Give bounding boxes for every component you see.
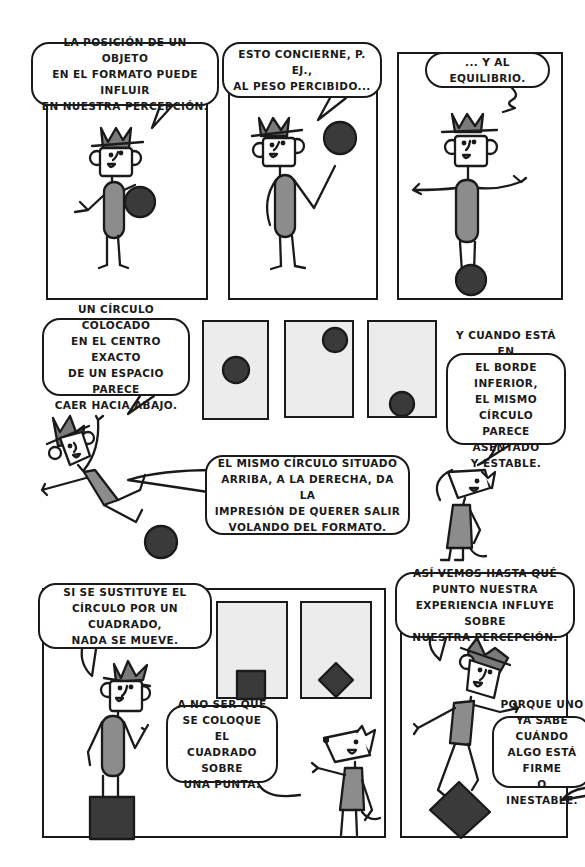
speech-bubble-stable: Y cuando está en el borde inferior, el m…	[446, 353, 566, 445]
dog-character-standing	[437, 470, 495, 560]
speech-bubble-point: A no ser que se coloque el cuadrado sobr…	[166, 705, 278, 783]
speech-bubble-falling: Un círculo colocado en el centro exacto …	[42, 318, 190, 396]
example-frame-square	[216, 601, 288, 699]
bubble-text: Si se sustituye el círculo Por un cuadra…	[46, 584, 204, 648]
bubble-text: Un círculo colocado en el centro exacto …	[50, 301, 182, 413]
speech-bubble-experience: Así vemos hasta qué Punto nuestra experi…	[395, 572, 575, 638]
speech-bubble-flying: El mismo círculo situado arriba, a la de…	[205, 455, 410, 535]
speech-bubble-firm: Porque uno ya sabe cuándo algo está firm…	[492, 716, 585, 788]
bubble-text: ... Y al equilibrio.	[433, 54, 542, 86]
speech-bubble-weight: Esto concierne, P. ej., al Peso Percibid…	[222, 42, 382, 98]
bubble-text: Así vemos hasta qué Punto nuestra experi…	[403, 565, 567, 645]
bubble-text: A no ser que se coloque el cuadrado sobr…	[174, 696, 270, 792]
bubble-text: El mismo círculo situado arriba, a la de…	[213, 455, 402, 535]
speech-bubble-square: Si se sustituye el círculo Por un cuadra…	[38, 583, 212, 649]
example-frame-diamond	[300, 601, 372, 699]
bubble-text: Esto concierne, P. ej., al Peso Percibid…	[230, 46, 374, 94]
bubble-text: Y cuando está en el borde inferior, el m…	[454, 327, 558, 471]
example-frame-bottom-circle	[367, 320, 437, 418]
stick-figure-falling	[42, 416, 177, 558]
example-frame-topright-circle	[284, 320, 354, 418]
bubble-text: La Posición de un objeto en el formato p…	[39, 34, 211, 114]
example-frame-center-circle	[202, 320, 269, 420]
speech-bubble-position: La Posición de un objeto en el formato p…	[31, 42, 219, 106]
speech-bubble-balance: ... Y al equilibrio.	[425, 52, 550, 88]
comic-panel-3	[397, 52, 563, 300]
bubble-text: Porque uno ya sabe cuándo algo está firm…	[500, 696, 584, 808]
